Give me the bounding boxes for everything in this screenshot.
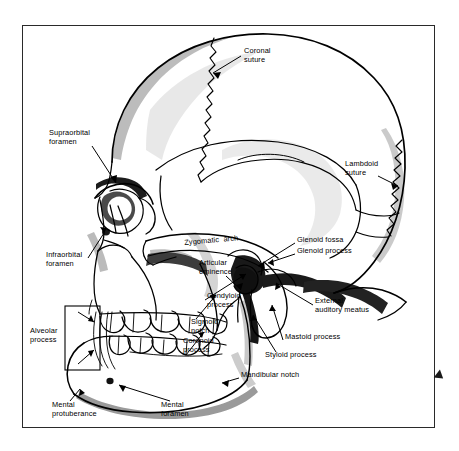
label-lambdoid-suture: Lambdoid suture <box>345 160 378 177</box>
label-sigmoid-notch: Sigmoid notch <box>191 318 218 335</box>
skull-diagram <box>0 0 459 451</box>
label-alveolar-process: Alveolar process <box>30 327 58 344</box>
label-coronoid-process: Coronoid process <box>183 337 214 354</box>
label-styloid-process: Styloid process <box>265 351 317 360</box>
label-glenoid-process: Glenoid process <box>297 247 352 256</box>
shading-layer <box>76 37 404 419</box>
label-mental-foramen: Mental foramen <box>161 401 189 418</box>
figure-stage: Coronal suture Supraorbital foramen Lamb… <box>0 0 459 451</box>
label-infraorbital-foramen: Infraorbital foramen <box>46 251 82 268</box>
label-supraorbital-foramen: Supraorbital foramen <box>49 129 90 146</box>
label-mental-protuberance: Mental protuberance <box>52 401 97 418</box>
label-articular-eminence: Articular eminence <box>199 259 232 276</box>
label-mandibular-notch: Mandibular notch <box>241 371 299 380</box>
label-coronal-suture: Coronal suture <box>244 47 271 64</box>
label-mastoid-process: Mastoid process <box>285 333 340 342</box>
label-glenoid-fossa: Glenoid fossa <box>297 236 344 245</box>
label-condyloid-process: Condyloid process <box>207 292 241 309</box>
leader-lines <box>70 56 398 401</box>
label-external-auditory-meatus: External auditory meatus <box>315 297 369 314</box>
